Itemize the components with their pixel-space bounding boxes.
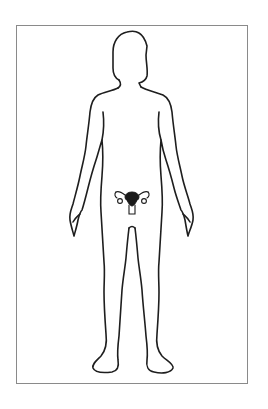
neck-left (118, 80, 120, 88)
head-outline (113, 31, 147, 87)
body-diagram (0, 0, 268, 409)
right-inner-arm (158, 112, 161, 140)
uterus-icon (115, 192, 149, 214)
crotch-outline (129, 227, 135, 229)
left-inner-arm (102, 112, 104, 140)
body-right-outline (135, 87, 193, 373)
body-left-outline (70, 88, 129, 373)
